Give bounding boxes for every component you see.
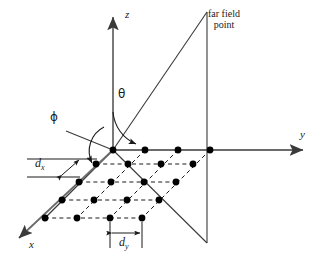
y-axis-label: y bbox=[300, 128, 305, 140]
array-element-dot bbox=[107, 215, 114, 222]
far-field-construction-lines bbox=[113, 12, 207, 243]
array-grid-dashed-lines bbox=[45, 150, 210, 218]
x-axis-label: x bbox=[29, 238, 34, 250]
array-element-dot bbox=[93, 161, 100, 168]
dy-spacing-label: dy bbox=[119, 236, 129, 252]
array-element-dot bbox=[76, 179, 83, 186]
coordinate-axes bbox=[19, 17, 303, 238]
far-field-point-label: far field point bbox=[208, 8, 240, 30]
array-element-dot bbox=[156, 197, 163, 204]
array-element-dot bbox=[158, 161, 165, 168]
array-element-dot bbox=[142, 147, 149, 154]
dx-subscript: x bbox=[41, 163, 45, 172]
phi-angle-label: ϕ bbox=[50, 111, 58, 124]
array-element-dot bbox=[59, 197, 66, 204]
array-element-dot bbox=[175, 147, 182, 154]
far-field-label-line-2: point bbox=[208, 19, 240, 30]
array-element-dot bbox=[108, 179, 115, 186]
array-element-dot bbox=[141, 179, 148, 186]
array-element-dot bbox=[124, 197, 131, 204]
dx-double-arrow bbox=[62, 160, 79, 175]
array-element-dot bbox=[74, 215, 81, 222]
array-element-dot bbox=[173, 179, 180, 186]
array-element-dot bbox=[207, 147, 214, 154]
antenna-array-diagram: z y x θ ϕ far field point dx dy bbox=[0, 0, 323, 263]
array-element-dot bbox=[42, 215, 49, 222]
array-element-dot bbox=[139, 215, 146, 222]
array-element-dot bbox=[190, 161, 197, 168]
diagram-canvas bbox=[0, 0, 323, 263]
array-element-dots bbox=[42, 147, 214, 222]
dx-spacing-label: dx bbox=[35, 157, 45, 173]
array-element-dot bbox=[125, 161, 132, 168]
far-field-ray bbox=[113, 12, 207, 150]
z-axis-label: z bbox=[125, 8, 129, 20]
theta-angle-label: θ bbox=[118, 88, 125, 101]
array-element-dot bbox=[91, 197, 98, 204]
theta-angle-arc bbox=[113, 112, 136, 144]
array-element-dot bbox=[110, 147, 117, 154]
far-field-label-line-1: far field bbox=[208, 8, 240, 19]
dy-subscript: y bbox=[125, 242, 129, 251]
